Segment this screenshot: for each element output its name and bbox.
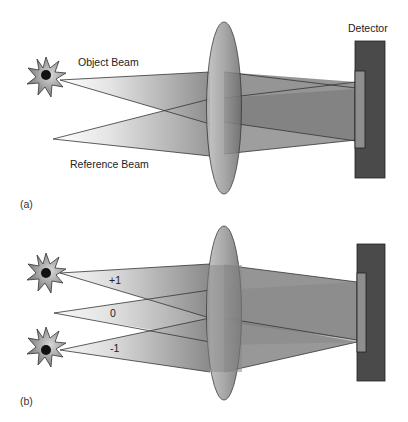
order-zero-label: 0 (110, 307, 116, 319)
lens (207, 22, 242, 194)
detector-sensor (355, 71, 365, 148)
detector-label: Detector (348, 22, 388, 34)
detector-sensor (357, 273, 366, 352)
source-dot (41, 345, 51, 355)
source-dot (41, 70, 51, 80)
reference-beam-converging (224, 89, 356, 154)
panel-b: +1 0 -1 (b) (20, 226, 385, 407)
order-plus-one-label: +1 (109, 274, 121, 286)
panel-b-label: (b) (20, 395, 33, 407)
source-dot (41, 268, 51, 278)
object-beam-label: Object Beam (78, 56, 139, 68)
order-minus-one-label: -1 (110, 342, 119, 354)
panel-a-label: (a) (20, 198, 33, 210)
zero-beam-converging (224, 282, 357, 345)
panel-a: Object Beam Reference Beam Detector (a) (20, 22, 388, 210)
holography-diagram: Object Beam Reference Beam Detector (a) (0, 0, 408, 422)
reference-beam-label: Reference Beam (70, 158, 149, 170)
